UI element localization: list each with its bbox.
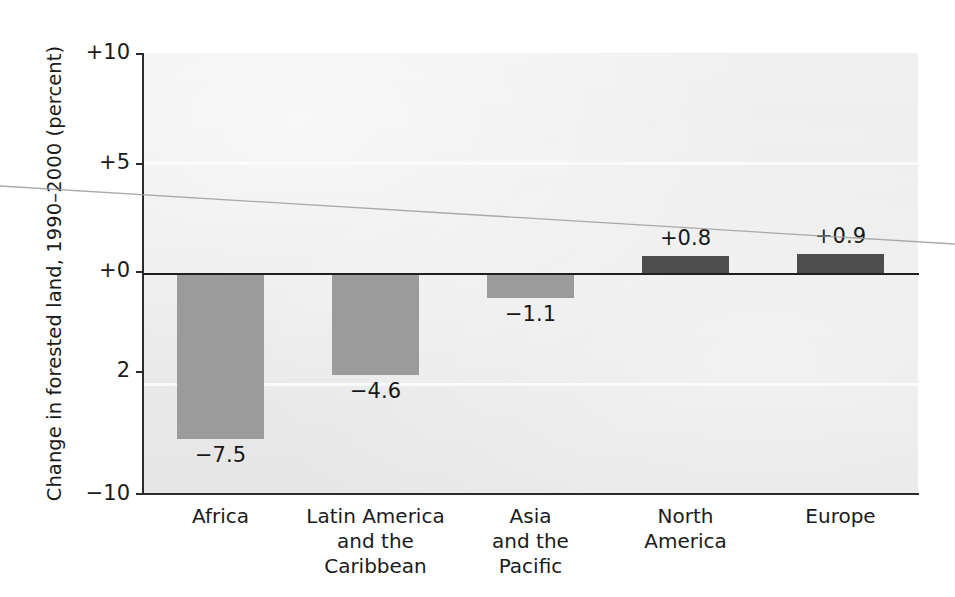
category-label-latin-america: Latin America and the Caribbean (298, 502, 453, 597)
x-axis-category-labels: Africa Latin America and the Caribbean A… (143, 502, 918, 597)
category-line: North (608, 504, 763, 529)
category-line: Pacific (453, 554, 608, 579)
bar-value-europe: +0.9 (781, 226, 901, 247)
category-label-europe: Europe (763, 502, 918, 597)
category-line: America (608, 529, 763, 554)
category-line: Asia (453, 504, 608, 529)
y-tick-label-5: +5 (56, 152, 130, 173)
bar-asia-pacific[interactable] (487, 274, 573, 298)
zero-baseline (142, 273, 919, 275)
y-tick-label-10: +10 (56, 42, 130, 63)
x-axis-line (142, 493, 919, 495)
bar-value-north-america: +0.8 (626, 228, 746, 249)
y-axis-ticks: +10 +5 +0 2 −10 (56, 0, 130, 597)
bar-value-latin-america: −4.6 (316, 381, 436, 402)
bar-europe[interactable] (797, 254, 883, 274)
bar-value-africa: −7.5 (161, 445, 281, 466)
gridline-plus5 (143, 162, 918, 165)
category-label-north-america: North America (608, 502, 763, 597)
category-label-africa: Africa (143, 502, 298, 597)
bar-africa[interactable] (177, 274, 263, 439)
category-line: Europe (763, 504, 918, 529)
category-line: and the (453, 529, 608, 554)
category-label-asia-pacific: Asia and the Pacific (453, 502, 608, 597)
category-line: and the (298, 529, 453, 554)
y-tick-label-neg5: 2 (56, 360, 130, 381)
bar-value-asia-pacific: −1.1 (471, 304, 591, 325)
y-tick-label-0: +0 (56, 260, 130, 281)
bar-latin-america[interactable] (332, 274, 418, 375)
category-line: Africa (143, 504, 298, 529)
bar-north-america[interactable] (642, 256, 728, 274)
category-line: Latin America (298, 504, 453, 529)
category-line: Caribbean (298, 554, 453, 579)
chart-figure: Change in forested land, 1990–2000 (perc… (0, 0, 955, 597)
y-tick-label-neg10: −10 (56, 483, 130, 504)
